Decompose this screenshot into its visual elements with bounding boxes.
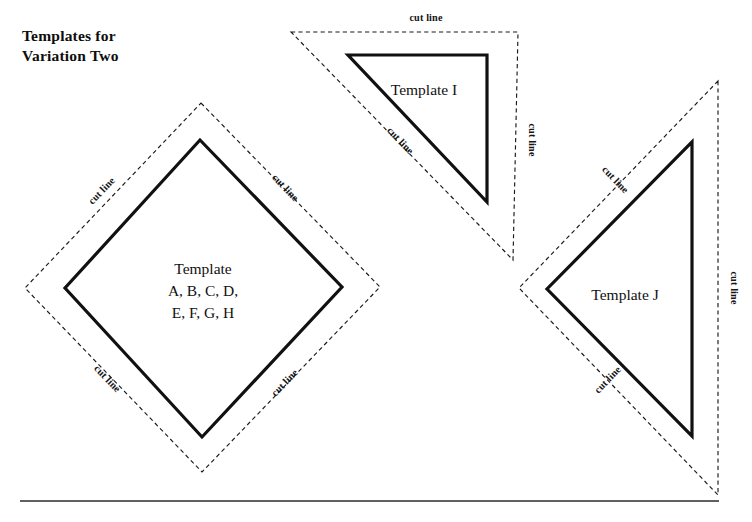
template-group-i: cut line cut line cut line Template I <box>291 12 538 260</box>
template-j-label: Template J <box>591 286 658 303</box>
cut-line-label: cut line <box>270 172 301 204</box>
cut-line-label: cut line <box>600 164 631 196</box>
template-i-outline <box>348 55 487 202</box>
template-sheet: Templates for Variation Two cut line cut… <box>0 0 752 522</box>
cut-line-label: cut line <box>86 175 117 207</box>
template-i-label: Template I <box>391 81 457 98</box>
cut-line-label: cut line <box>729 271 740 305</box>
template-group-j: cut line cut line cut line Template J <box>519 81 740 495</box>
cut-line-label: cut line <box>385 125 416 157</box>
template-group-diamond: cut line cut line cut line cut line Temp… <box>25 103 380 472</box>
cut-line-label: cut line <box>527 123 538 157</box>
diamond-template-label-line3: E, F, G, H <box>172 304 234 321</box>
cut-line-label: cut line <box>409 12 443 23</box>
diamond-template-label-line1: Template <box>174 260 232 277</box>
cut-line-label: cut line <box>92 363 123 395</box>
cut-line-label: cut line <box>269 367 300 399</box>
cut-line-label: cut line <box>592 364 623 396</box>
templates-figure: cut line cut line cut line cut line Temp… <box>0 0 752 522</box>
diamond-template-label-line2: A, B, C, D, <box>168 282 238 299</box>
